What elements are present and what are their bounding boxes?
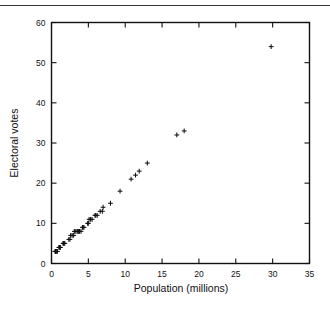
y-tick-label: 40 (36, 98, 46, 108)
data-point (101, 205, 106, 210)
y-tick-label: 50 (36, 58, 46, 68)
x-tick-label: 30 (268, 269, 278, 279)
data-point-markers (53, 44, 274, 254)
y-tick-label: 30 (36, 138, 46, 148)
data-point (269, 44, 274, 49)
data-point (137, 169, 142, 174)
x-tick-label: 0 (49, 269, 54, 279)
x-tick-label: 20 (194, 269, 204, 279)
data-point (145, 161, 150, 166)
data-point (100, 209, 105, 214)
x-tick-label: 10 (120, 269, 130, 279)
y-tick-label: 20 (36, 178, 46, 188)
x-axis-title: Population (millions) (134, 282, 229, 294)
x-tick-label: 25 (231, 269, 241, 279)
data-point (174, 133, 179, 138)
plot-frame (52, 23, 310, 264)
x-tick-label: 35 (305, 269, 315, 279)
x-axis-tick-labels: 05101520253035 (49, 269, 314, 279)
y-tick-label: 0 (41, 259, 46, 269)
x-tick-label: 15 (157, 269, 167, 279)
plot-canvas: Electoral votes Population (millions) 05… (0, 0, 330, 311)
y-tick-label: 10 (36, 218, 46, 228)
data-point (118, 189, 123, 194)
y-axis-title: Electoral votes (8, 109, 20, 178)
data-point (129, 177, 134, 182)
data-point (133, 173, 138, 178)
data-point (182, 129, 187, 134)
x-tick-label: 5 (86, 269, 91, 279)
x-axis-ticks (52, 23, 310, 264)
data-point (108, 201, 113, 206)
data-point (86, 221, 91, 226)
y-axis-ticks (52, 23, 310, 264)
y-axis-tick-labels: 0102030405060 (36, 18, 46, 269)
data-point (68, 237, 73, 242)
scatter-plot-figure: Electoral votes Population (millions) 05… (0, 0, 330, 311)
y-tick-label: 60 (36, 18, 46, 28)
